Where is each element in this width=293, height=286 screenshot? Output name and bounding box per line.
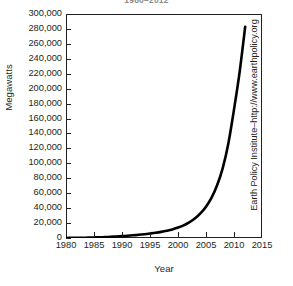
y-axis-tick-label: 260,000 [8, 39, 62, 48]
y-axis-tick [66, 133, 71, 134]
y-axis-tick-label: 200,000 [8, 84, 62, 93]
y-axis-tick-label: 20,000 [8, 218, 62, 227]
y-axis-ticks [66, 14, 72, 238]
y-axis-tick [66, 208, 71, 209]
x-axis-title: Year [66, 263, 262, 274]
x-axis-tick [206, 232, 207, 237]
chart-figure: 1980–2012 020,00040,00060,00080,000100,0… [0, 0, 293, 286]
y-axis-tick-label: 280,000 [8, 24, 62, 33]
y-axis-tick-label: 160,000 [8, 114, 62, 123]
y-axis-tick [66, 178, 71, 179]
y-axis-tick-label: 300,000 [8, 9, 62, 18]
y-axis-tick [66, 44, 71, 45]
y-axis-tick-label: 80,000 [8, 174, 62, 183]
y-axis-tick-label: 60,000 [8, 189, 62, 198]
y-axis-tick [66, 148, 71, 149]
y-axis-tick [66, 223, 71, 224]
line-series-path [66, 27, 245, 238]
x-axis-ticks [66, 232, 262, 238]
y-axis-tick [66, 104, 71, 105]
y-axis-tick-label: 140,000 [8, 129, 62, 138]
line-series-svg [66, 14, 262, 238]
y-axis-tick-label: 100,000 [8, 159, 62, 168]
y-axis-tick [66, 119, 71, 120]
y-axis-tick-label: 180,000 [8, 99, 62, 108]
source-credit: Earth Policy Institute–http://www.earthp… [249, 0, 259, 230]
y-axis-tick-label: 220,000 [8, 69, 62, 78]
y-axis-tick-label: 40,000 [8, 203, 62, 212]
y-axis-tick-labels: 020,00040,00060,00080,000100,000120,0001… [8, 14, 62, 238]
y-axis-tick [66, 163, 71, 164]
y-axis-tick-label: 120,000 [8, 144, 62, 153]
x-axis-tick-label: 2015 [242, 240, 282, 251]
y-axis-tick [66, 59, 71, 60]
y-axis-tick [66, 89, 71, 90]
data-series-layer [66, 14, 262, 238]
x-axis-tick [94, 232, 95, 237]
y-axis-tick [66, 193, 71, 194]
x-axis-tick [150, 232, 151, 237]
y-axis-tick [66, 74, 71, 75]
x-axis-tick [234, 232, 235, 237]
y-axis-tick [66, 238, 71, 239]
x-axis-tick-labels: 19801985199019952000200520102015 [0, 240, 293, 254]
y-axis-tick [66, 29, 71, 30]
x-axis-tick [122, 232, 123, 237]
y-axis-title: Megawatts [3, 48, 14, 128]
y-axis-tick-label: 240,000 [8, 54, 62, 63]
x-axis-tick [178, 232, 179, 237]
